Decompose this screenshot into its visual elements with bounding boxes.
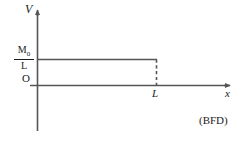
- fraction-denominator: L: [14, 60, 34, 72]
- origin-label: O: [22, 73, 30, 84]
- fraction-numerator-subscript: 0: [27, 50, 31, 58]
- figure-container: V x O L M0 L (BFD): [0, 0, 251, 141]
- y-tick-label-fraction: M0 L: [14, 45, 34, 72]
- fraction-numerator-symbol: M: [18, 44, 27, 55]
- x-tick-label-L: L: [152, 88, 158, 99]
- figure-caption: (BFD): [199, 115, 228, 126]
- fraction-numerator: M0: [14, 45, 34, 60]
- axis-label-x: x: [225, 88, 230, 99]
- axis-label-y: V: [25, 3, 32, 15]
